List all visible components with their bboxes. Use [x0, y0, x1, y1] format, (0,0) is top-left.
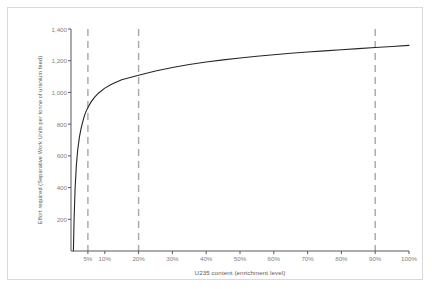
axes-group — [71, 29, 409, 251]
chart-screenshot: 2004006008001,0001,2001,400 5%10%20%30%4… — [0, 0, 432, 289]
plot-area — [71, 29, 409, 251]
x-tick-label-80pct: 80% — [326, 255, 356, 263]
x-tick-label-30pct: 30% — [157, 255, 187, 263]
data-series-group — [73, 45, 409, 251]
x-tick-label-100pct: 100% — [394, 255, 424, 263]
reference-lines-group — [88, 29, 375, 251]
x-tick-label-50pct: 50% — [225, 255, 255, 263]
series-line-0 — [73, 45, 409, 251]
x-tick-label-20pct: 20% — [124, 255, 154, 263]
chart-plot-svg — [71, 29, 409, 251]
x-tick-label-90pct: 90% — [360, 255, 390, 263]
x-tick-label-60pct: 60% — [259, 255, 289, 263]
chart-frame: 2004006008001,0001,2001,400 5%10%20%30%4… — [7, 7, 423, 280]
x-tick-label-40pct: 40% — [191, 255, 221, 263]
y-axis-title: Effort required (Separative Work Units p… — [34, 29, 46, 251]
x-axis-title: U235 content (enrichment level) — [71, 269, 409, 276]
x-tick-label-70pct: 70% — [293, 255, 323, 263]
x-tick-label-10pct: 10% — [90, 255, 120, 263]
x-axis-tick-labels: 5%10%20%30%40%50%60%70%80%90%100% — [71, 255, 409, 265]
